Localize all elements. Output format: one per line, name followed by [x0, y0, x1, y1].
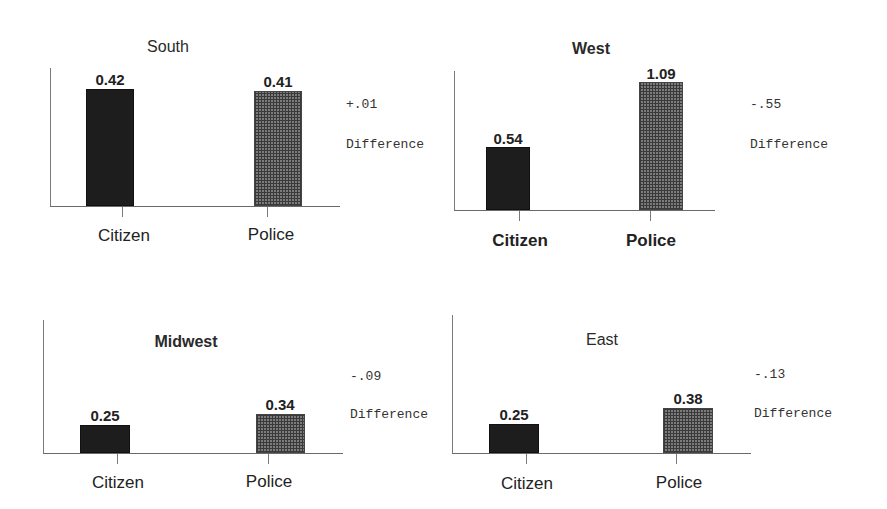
- tick-police: [650, 211, 651, 221]
- tick-police: [268, 454, 269, 464]
- chart-title: West: [572, 40, 610, 58]
- category-label-citizen: Citizen: [92, 473, 144, 493]
- bar-citizen: [489, 424, 539, 453]
- bar-citizen: [486, 147, 530, 210]
- category-label-citizen: Citizen: [501, 474, 553, 494]
- difference-label: Difference: [750, 137, 828, 152]
- difference-label: Difference: [350, 407, 428, 422]
- bar-police: [639, 82, 683, 210]
- category-label-police: Police: [656, 473, 702, 493]
- difference-value: -.55: [750, 97, 781, 112]
- tick-police: [267, 207, 268, 217]
- tick-citizen: [122, 207, 123, 217]
- tick-citizen: [526, 454, 527, 464]
- x-axis: [454, 210, 715, 211]
- bar-police: [254, 91, 302, 206]
- difference-value: -.13: [754, 367, 785, 382]
- value-label-citizen: 0.25: [499, 406, 528, 423]
- chart-title: East: [586, 331, 618, 349]
- y-axis: [454, 71, 455, 211]
- value-label-police: 0.41: [263, 73, 292, 90]
- category-label-police: Police: [626, 231, 676, 251]
- difference-value: -.09: [350, 369, 381, 384]
- category-label-citizen: Citizen: [492, 231, 548, 251]
- y-axis: [452, 315, 453, 454]
- category-label-citizen: Citizen: [98, 226, 150, 246]
- bar-citizen: [80, 425, 130, 453]
- value-label-citizen: 0.54: [493, 130, 522, 147]
- y-axis: [43, 320, 44, 454]
- value-label-police: 0.38: [673, 390, 702, 407]
- category-label-police: Police: [248, 225, 294, 245]
- chart-title: South: [147, 38, 189, 56]
- y-axis: [50, 68, 51, 207]
- chart-title: Midwest: [154, 333, 217, 351]
- tick-citizen: [519, 211, 520, 221]
- bar-citizen: [86, 89, 134, 206]
- tick-citizen: [117, 454, 118, 464]
- x-axis: [43, 453, 343, 454]
- x-axis: [50, 206, 340, 207]
- tick-police: [676, 454, 677, 464]
- value-label-citizen: 0.42: [95, 71, 124, 88]
- difference-label: Difference: [346, 137, 424, 152]
- difference-value: +.01: [346, 97, 377, 112]
- x-axis: [452, 453, 751, 454]
- bar-police: [663, 408, 713, 453]
- value-label-citizen: 0.25: [90, 407, 119, 424]
- category-label-police: Police: [246, 472, 292, 492]
- value-label-police: 1.09: [646, 65, 675, 82]
- bar-police: [256, 414, 305, 453]
- difference-label: Difference: [754, 406, 832, 421]
- value-label-police: 0.34: [265, 396, 294, 413]
